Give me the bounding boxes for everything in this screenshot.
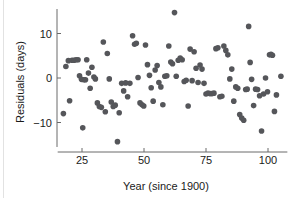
- data-point: [147, 73, 153, 79]
- data-point: [84, 57, 90, 63]
- data-point: [105, 51, 111, 57]
- data-point: [244, 86, 250, 92]
- data-point: [112, 102, 118, 108]
- data-point: [63, 64, 69, 70]
- data-point: [145, 62, 151, 68]
- data-point: [166, 43, 172, 49]
- data-point: [141, 103, 147, 109]
- page-edge-rule: [3, 0, 4, 198]
- data-point: [101, 39, 107, 45]
- data-point: [229, 66, 235, 72]
- data-point: [121, 88, 127, 94]
- data-point: [99, 105, 105, 111]
- data-point: [150, 98, 156, 104]
- data-point: [86, 70, 92, 76]
- data-point: [75, 57, 81, 63]
- data-point: [191, 49, 197, 55]
- data-point: [164, 73, 170, 79]
- data-point: [173, 73, 179, 79]
- y-tick-label: 10: [40, 28, 52, 40]
- data-point: [227, 76, 233, 82]
- data-point: [195, 80, 201, 86]
- data-point: [134, 40, 140, 46]
- x-tick-label: 75: [200, 154, 212, 166]
- data-point: [219, 93, 225, 99]
- y-axis-title: Residuals (days): [14, 41, 26, 123]
- data-point: [179, 57, 185, 63]
- data-point: [235, 85, 241, 91]
- scatter-plot-figure: 255075100−10010 Year (since 1900) Residu…: [0, 0, 303, 198]
- data-point: [231, 98, 237, 104]
- data-point: [199, 66, 205, 72]
- data-point: [225, 52, 231, 58]
- data-point: [251, 103, 257, 109]
- data-point: [116, 110, 122, 116]
- x-tick-label: 25: [76, 154, 88, 166]
- data-point: [61, 111, 67, 117]
- data-point: [189, 78, 195, 84]
- data-point: [241, 117, 247, 123]
- data-point: [246, 24, 252, 30]
- data-point: [278, 73, 284, 79]
- data-point: [103, 109, 109, 115]
- data-point: [172, 10, 178, 16]
- data-point: [154, 63, 160, 69]
- data-point: [89, 65, 95, 71]
- data-point: [272, 109, 278, 115]
- data-point: [201, 81, 207, 87]
- data-point: [135, 75, 141, 81]
- residuals-scatter-chart: 255075100−10010 Year (since 1900) Residu…: [0, 0, 303, 198]
- data-point: [127, 81, 133, 87]
- data-point: [148, 85, 154, 91]
- data-points-layer: [61, 10, 284, 145]
- data-point: [215, 45, 221, 51]
- data-point: [158, 84, 164, 90]
- data-point: [115, 139, 121, 145]
- data-point: [170, 61, 176, 67]
- data-point: [185, 103, 191, 109]
- data-point: [130, 33, 136, 39]
- data-point: [80, 125, 86, 131]
- data-point: [83, 77, 89, 83]
- data-point: [265, 89, 271, 95]
- x-tick-label: 50: [138, 154, 150, 166]
- data-point: [67, 98, 73, 104]
- data-point: [270, 53, 276, 59]
- data-point: [259, 128, 265, 134]
- data-point: [274, 92, 280, 98]
- data-point: [125, 94, 131, 100]
- data-point: [247, 60, 253, 66]
- data-point: [143, 42, 149, 48]
- y-tick-label: −10: [33, 117, 52, 129]
- x-tick-label: 100: [259, 154, 277, 166]
- y-tick-label: 0: [46, 72, 52, 84]
- data-point: [255, 87, 261, 93]
- data-point: [87, 85, 93, 91]
- data-point: [263, 75, 269, 81]
- data-point: [106, 76, 112, 82]
- data-point: [249, 77, 255, 83]
- data-point: [93, 76, 99, 82]
- x-axis-title: Year (since 1900): [123, 180, 209, 192]
- data-point: [160, 102, 166, 108]
- data-point: [211, 90, 217, 96]
- data-point: [183, 77, 189, 83]
